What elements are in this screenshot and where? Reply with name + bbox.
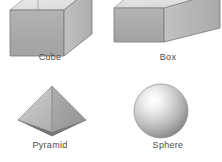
cube-face-side: [64, 0, 92, 56]
box-face-front: [114, 8, 164, 42]
box-face-side: [164, 0, 220, 42]
sphere-illustration: [132, 82, 190, 140]
shapes-figure: Cube: [0, 0, 222, 162]
pyramid-illustration: [14, 84, 90, 140]
cube-label: Cube: [0, 52, 100, 63]
sphere-body: [134, 84, 188, 138]
cube-face-front: [10, 10, 64, 56]
sphere-label: Sphere: [120, 140, 216, 151]
pyramid-face-right: [52, 86, 86, 132]
pyramid-face-left: [18, 86, 52, 132]
sphere-icon: [132, 82, 190, 140]
pyramid-label: Pyramid: [0, 140, 100, 151]
box-label: Box: [120, 52, 216, 63]
pyramid-icon: [14, 84, 90, 140]
